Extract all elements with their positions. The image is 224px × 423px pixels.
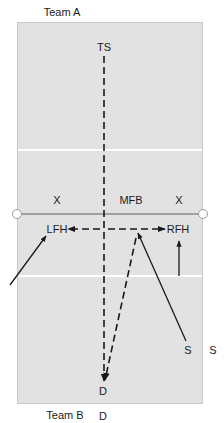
net-post-left <box>13 210 22 219</box>
volleyball-court-diagram: Team A TS X MFB X LFH RFH S S D Team B D <box>0 0 224 423</box>
position-x-right: X <box>175 195 182 206</box>
position-x-left: X <box>53 195 60 206</box>
net-post-right <box>199 210 208 219</box>
position-d-inner: D <box>99 386 107 397</box>
position-d-outer: D <box>99 411 107 422</box>
position-mfb: MFB <box>119 195 142 206</box>
team-b-label: Team B <box>46 410 83 421</box>
position-rfh: RFH <box>167 224 190 235</box>
path-outside-to-lfh <box>10 236 46 285</box>
position-lfh: LFH <box>47 224 68 235</box>
position-s-outer: S <box>209 345 216 356</box>
position-s-inner: S <box>184 345 191 356</box>
court-lines-overlay <box>0 0 224 423</box>
position-ts: TS <box>97 42 111 53</box>
path-apex-to-d <box>105 238 136 380</box>
